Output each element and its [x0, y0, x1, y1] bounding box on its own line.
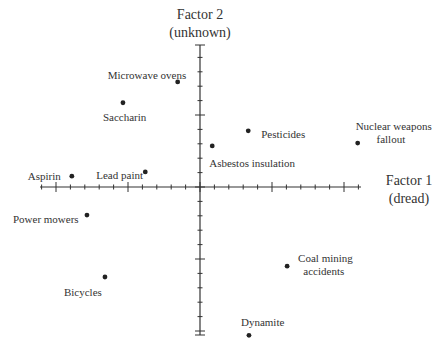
point-label: Pesticides	[261, 128, 305, 140]
data-point: Power mowers	[13, 213, 89, 225]
data-point: Asbestos insulation	[209, 144, 295, 169]
point-marker	[246, 128, 251, 133]
point-label: Aspirin	[28, 170, 62, 182]
y-axis-title-line2: (unknown)	[169, 25, 231, 41]
data-point: Nuclear weaponsfallout	[355, 120, 431, 145]
point-marker	[121, 100, 126, 105]
point-label: Asbestos insulation	[209, 157, 295, 169]
data-point: Pesticides	[246, 128, 305, 140]
data-point: Bicycles	[64, 275, 107, 298]
x-axis-title-line1: Factor 1	[386, 173, 432, 188]
point-marker	[143, 169, 148, 174]
data-point: Microwave ovens	[108, 69, 187, 84]
point-label: Coal mining	[298, 252, 353, 264]
point-marker	[85, 213, 90, 218]
point-label: Power mowers	[13, 213, 79, 225]
x-axis-title-line2: (dread)	[389, 191, 430, 207]
point-label: Dynamite	[241, 316, 284, 328]
point-label: Lead paint	[96, 169, 143, 181]
data-points: Microwave ovensSaccharinAspirinLead pain…	[13, 69, 432, 338]
point-marker	[103, 275, 108, 280]
point-marker	[285, 264, 290, 269]
point-label: Nuclear weapons	[356, 120, 432, 132]
point-label: Saccharin	[103, 111, 147, 123]
y-axis-title-line1: Factor 2	[177, 7, 223, 22]
point-label: Bicycles	[64, 286, 102, 298]
point-label: accidents	[303, 265, 344, 277]
data-point: Coal miningaccidents	[285, 252, 354, 277]
data-point: Aspirin	[28, 170, 74, 182]
point-marker	[355, 141, 360, 146]
point-marker	[247, 333, 252, 338]
data-point: Lead paint	[96, 169, 147, 181]
factor-scatter-chart: Microwave ovensSaccharinAspirinLead pain…	[0, 0, 441, 346]
data-point: Saccharin	[103, 100, 147, 122]
data-point: Dynamite	[241, 316, 284, 337]
point-marker	[210, 144, 215, 149]
point-label: Microwave ovens	[108, 69, 187, 81]
point-label: fallout	[376, 133, 405, 145]
point-marker	[69, 174, 74, 179]
axis-titles: Factor 2 (unknown) Factor 1 (dread)	[169, 7, 432, 207]
